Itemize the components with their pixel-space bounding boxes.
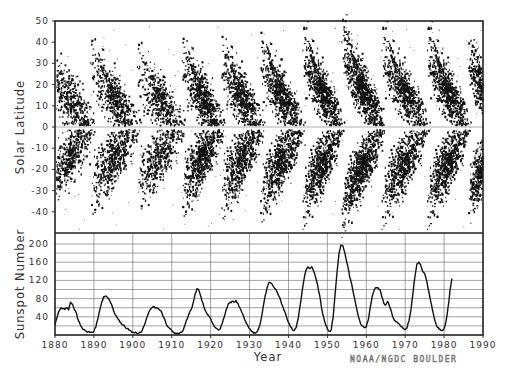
sunspot-tick-label: 40 — [36, 312, 49, 322]
year-tick-label: 1900 — [119, 340, 146, 350]
year-tick-label: 1890 — [80, 340, 107, 350]
year-tick-label: 1970 — [392, 340, 419, 350]
latitude-axis-ticks: 50403020100-10-20-30-40 — [31, 16, 55, 217]
latitude-tick-label: -30 — [31, 186, 49, 196]
year-tick-label: 1910 — [158, 340, 185, 350]
sunspot-axis-ticks: 2001601208040 — [29, 239, 49, 322]
latitude-tick-label: 40 — [36, 37, 49, 47]
sunspot-latitude-dots — [56, 14, 484, 238]
year-tick-label: 1920 — [197, 340, 224, 350]
year-axis-label: Year — [253, 350, 282, 364]
latitude-tick-label: 0 — [42, 122, 49, 132]
butterfly-diagram-panel: 50403020100-10-20-30-40 Solar Latitude — [13, 14, 484, 238]
year-tick-label: 1940 — [275, 340, 302, 350]
year-tick-label: 1930 — [236, 340, 263, 350]
sunspot-tick-label: 200 — [29, 239, 49, 249]
latitude-tick-label: 20 — [36, 80, 49, 90]
sunspot-tick-label: 80 — [36, 294, 49, 304]
sunspot-tick-label: 160 — [29, 257, 49, 267]
butterfly-sunspot-chart: 50403020100-10-20-30-40 Solar Latitude 2… — [0, 0, 507, 378]
latitude-axis-label: Solar Latitude — [13, 80, 27, 174]
year-tick-label: 1880 — [42, 340, 69, 350]
latitude-tick-label: -40 — [31, 207, 49, 217]
year-tick-label: 1960 — [353, 340, 380, 350]
year-axis-ticks: 1880189019001910192019301940195019601970… — [42, 335, 497, 350]
sunspot-tick-label: 120 — [29, 275, 49, 285]
year-tick-label: 1990 — [470, 340, 497, 350]
credit-text: NOAA/NGDC BOULDER — [350, 355, 457, 364]
sunspot-axis-label: Sunspot Number — [13, 229, 27, 340]
sunspot-number-panel: 2001601208040 18801890190019101920193019… — [13, 229, 496, 364]
latitude-tick-label: 30 — [36, 58, 49, 68]
latitude-tick-label: -10 — [31, 143, 49, 153]
year-tick-label: 1950 — [314, 340, 341, 350]
year-tick-label: 1980 — [431, 340, 458, 350]
latitude-tick-label: 50 — [36, 16, 49, 26]
latitude-tick-label: 10 — [36, 101, 49, 111]
latitude-tick-label: -20 — [31, 164, 49, 174]
